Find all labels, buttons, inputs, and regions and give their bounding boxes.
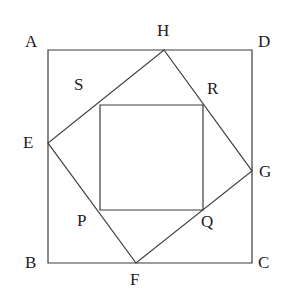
vertex-label-q: Q <box>201 213 213 230</box>
vertex-label-h: H <box>157 22 169 39</box>
vertex-label-e: E <box>23 134 33 151</box>
vertex-label-d: D <box>258 33 270 50</box>
vertex-label-s: S <box>74 76 83 93</box>
vertex-label-r: R <box>207 80 218 97</box>
vertex-label-a: A <box>25 33 37 50</box>
vertex-label-c: C <box>258 254 269 271</box>
geometry-figure: ADBCHGFESRPQ <box>0 0 299 305</box>
vertex-label-p: P <box>77 212 86 229</box>
vertex-label-b: B <box>25 254 36 271</box>
vertex-label-f: F <box>130 271 139 288</box>
vertex-label-g: G <box>259 163 271 180</box>
figure-canvas <box>0 0 299 305</box>
inner-square <box>100 105 203 210</box>
